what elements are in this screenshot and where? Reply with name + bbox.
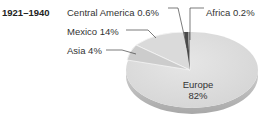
europe-value: 82% [178, 90, 218, 101]
leader-mexico [126, 30, 156, 38]
label-mexico: Mexico 14% [67, 26, 119, 37]
europe-name: Europe [178, 79, 218, 90]
pie-chart [0, 0, 268, 121]
label-central-america: Central America 0.6% [67, 7, 159, 18]
period-label: 1921–1940 [2, 7, 50, 18]
label-africa: Africa 0.2% [206, 7, 255, 18]
label-europe: Europe 82% [178, 79, 218, 101]
label-asia: Asia 4% [67, 45, 102, 56]
